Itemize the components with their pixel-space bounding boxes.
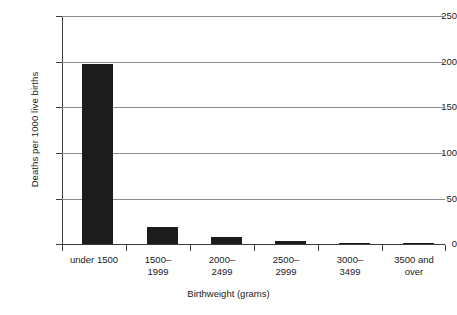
gridline-200 [62,62,445,63]
bar-2000-2499 [211,237,242,244]
bar-3000-3499 [339,243,370,244]
x-label-2000-2499: 2000– 2499 [190,254,254,277]
gridline-250 [62,16,445,17]
bar-3500-and-over [403,243,434,244]
x-tick-2 [190,245,191,251]
gridline-50 [62,199,445,200]
bar-2500-2999 [275,241,306,244]
gridline-100 [62,153,445,154]
plot-area [62,16,445,244]
gridline-150 [62,107,445,108]
x-label-3500-and-over: 3500 and over [382,254,446,277]
bar-1500-1999 [147,227,178,244]
x-axis-title: Birthweight (grams) [0,288,457,299]
x-label-1500-1999: 1500– 1999 [126,254,190,277]
bar-chart: Deaths per 1000 live births 250 200 150 … [0,0,457,315]
x-tick-1 [126,245,127,251]
x-tick-3 [254,245,255,251]
x-label-3000-3499: 3000– 3499 [318,254,382,277]
bar-under-1500 [82,64,113,244]
y-axis-title: Deaths per 1000 live births [29,30,40,230]
x-tick-5 [382,245,383,251]
x-label-2500-2999: 2500– 2999 [254,254,318,277]
x-label-under-1500: under 1500 [52,254,136,266]
x-tick-6 [445,245,446,251]
x-tick-4 [318,245,319,251]
x-tick-0 [62,245,63,251]
